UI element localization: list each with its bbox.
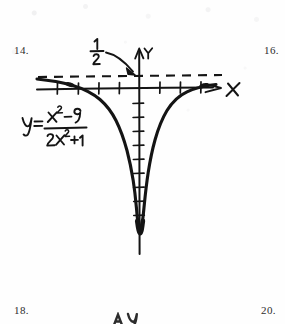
asymptote-annotation-arrow xyxy=(106,53,133,72)
function-curve xyxy=(37,79,216,233)
equation-annotation xyxy=(23,106,87,146)
hand-drawn-graph-figure xyxy=(0,0,285,324)
scanned-textbook-page: 14. 16. 18. 20. xyxy=(0,0,285,324)
x-axis-line xyxy=(37,88,213,90)
horizontal-asymptote-dashed-line xyxy=(38,75,222,77)
x-axis-label xyxy=(227,83,240,96)
clipped-next-figure-remnant xyxy=(108,311,168,324)
asymptote-value-label xyxy=(91,39,104,64)
y-axis-label xyxy=(145,48,153,58)
